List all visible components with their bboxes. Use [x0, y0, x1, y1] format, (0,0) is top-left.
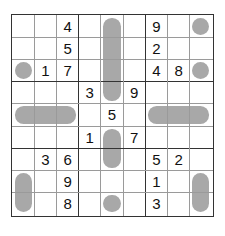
given-cell: 3 — [34, 148, 56, 170]
empty-cell[interactable] — [190, 193, 212, 215]
given-cell: 6 — [56, 148, 78, 170]
empty-cell[interactable] — [34, 126, 56, 148]
empty-cell[interactable] — [168, 37, 190, 59]
empty-cell[interactable] — [34, 37, 56, 59]
empty-cell[interactable] — [12, 104, 34, 126]
empty-cell[interactable] — [79, 59, 101, 81]
empty-cell[interactable] — [168, 82, 190, 104]
given-cell: 5 — [101, 104, 123, 126]
empty-cell[interactable] — [123, 15, 145, 37]
empty-cell[interactable] — [168, 15, 190, 37]
given-cell: 3 — [145, 193, 167, 215]
empty-cell[interactable] — [12, 126, 34, 148]
empty-cell[interactable] — [79, 104, 101, 126]
empty-cell[interactable] — [168, 104, 190, 126]
empty-cell[interactable] — [79, 148, 101, 170]
given-cell: 7 — [123, 126, 145, 148]
given-cell: 1 — [145, 171, 167, 193]
given-cell: 5 — [145, 148, 167, 170]
empty-cell[interactable] — [123, 148, 145, 170]
empty-cell[interactable] — [190, 104, 212, 126]
empty-cell[interactable] — [190, 15, 212, 37]
empty-cell[interactable] — [79, 171, 101, 193]
empty-cell[interactable] — [190, 82, 212, 104]
sudoku-board: 495217483951736529183 — [11, 14, 214, 217]
empty-cell[interactable] — [168, 126, 190, 148]
empty-cell[interactable] — [12, 37, 34, 59]
empty-cell[interactable] — [12, 148, 34, 170]
empty-cell[interactable] — [123, 104, 145, 126]
given-cell: 1 — [79, 126, 101, 148]
empty-cell[interactable] — [145, 82, 167, 104]
empty-cell[interactable] — [34, 82, 56, 104]
empty-cell[interactable] — [79, 15, 101, 37]
given-cell: 3 — [79, 82, 101, 104]
empty-cell[interactable] — [101, 15, 123, 37]
empty-cell[interactable] — [123, 171, 145, 193]
empty-cell[interactable] — [34, 171, 56, 193]
given-cell: 7 — [56, 59, 78, 81]
given-cell: 9 — [56, 171, 78, 193]
empty-cell[interactable] — [12, 82, 34, 104]
given-cell: 8 — [56, 193, 78, 215]
empty-cell[interactable] — [12, 193, 34, 215]
empty-cell[interactable] — [101, 148, 123, 170]
empty-cell[interactable] — [190, 37, 212, 59]
given-cell: 4 — [56, 15, 78, 37]
empty-cell[interactable] — [190, 171, 212, 193]
empty-cell[interactable] — [101, 37, 123, 59]
empty-cell[interactable] — [190, 148, 212, 170]
given-cell: 2 — [145, 37, 167, 59]
given-cell: 5 — [56, 37, 78, 59]
empty-cell[interactable] — [123, 193, 145, 215]
empty-cell[interactable] — [145, 104, 167, 126]
empty-cell[interactable] — [123, 37, 145, 59]
empty-cell[interactable] — [12, 171, 34, 193]
empty-cell[interactable] — [145, 126, 167, 148]
empty-cell[interactable] — [168, 193, 190, 215]
empty-cell[interactable] — [190, 126, 212, 148]
given-cell: 9 — [145, 15, 167, 37]
empty-cell[interactable] — [79, 37, 101, 59]
empty-cell[interactable] — [34, 104, 56, 126]
empty-cell[interactable] — [101, 59, 123, 81]
empty-cell[interactable] — [190, 59, 212, 81]
empty-cell[interactable] — [56, 82, 78, 104]
empty-cell[interactable] — [56, 126, 78, 148]
empty-cell[interactable] — [34, 193, 56, 215]
empty-cell[interactable] — [12, 59, 34, 81]
empty-cell[interactable] — [101, 126, 123, 148]
given-cell: 1 — [34, 59, 56, 81]
empty-cell[interactable] — [12, 15, 34, 37]
empty-cell[interactable] — [101, 193, 123, 215]
given-cell: 4 — [145, 59, 167, 81]
empty-cell[interactable] — [79, 193, 101, 215]
empty-cell[interactable] — [123, 59, 145, 81]
empty-cell[interactable] — [56, 104, 78, 126]
empty-cell[interactable] — [34, 15, 56, 37]
given-cell: 8 — [168, 59, 190, 81]
empty-cell[interactable] — [101, 171, 123, 193]
empty-cell[interactable] — [101, 82, 123, 104]
given-cell: 9 — [123, 82, 145, 104]
empty-cell[interactable] — [168, 171, 190, 193]
given-cell: 2 — [168, 148, 190, 170]
